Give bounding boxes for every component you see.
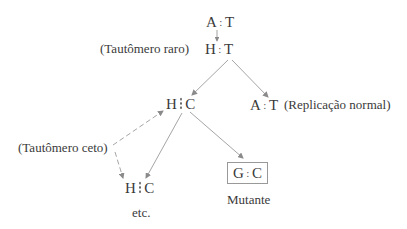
node-hc-bottom-pair: HC [125, 180, 155, 196]
edge-keto-to-hc-bottom [115, 152, 123, 178]
keto-tautomer-label: (Tautômero ceto) [18, 141, 108, 155]
root-separator: : [217, 14, 225, 30]
node-normal-pair: A:T [250, 97, 279, 113]
node-hc-middle-pair: HC [166, 96, 196, 112]
mutant-separator: : [244, 165, 252, 181]
rare-left-base: H [205, 41, 216, 57]
edge-rare-to-normal [232, 60, 268, 97]
normal-left-base: A [250, 97, 261, 113]
node-mutant-pair: G:C [227, 162, 268, 184]
edge-keto-to-hc-middle [113, 111, 163, 145]
rare-tautomer-label: (Tautômero raro) [100, 42, 189, 56]
hc-middle-left-base: H [166, 96, 177, 112]
hc-bottom-left-base: H [125, 180, 136, 196]
root-left-base: A [206, 14, 217, 30]
edge-hc-to-hc-bottom [146, 113, 182, 178]
mutant-left-base: G [233, 165, 244, 181]
mutant-label: Mutante [227, 193, 270, 207]
node-rare-tautomer-pair: H:T [205, 41, 234, 57]
etc-label: etc. [132, 206, 150, 220]
edge-rare-to-hc [192, 60, 228, 95]
mutant-right-base: C [252, 165, 263, 181]
hc-middle-right-base: C [185, 96, 196, 112]
hc-bottom-dotted-separator [139, 181, 141, 194]
root-right-base: T [225, 14, 235, 30]
rare-separator: : [216, 41, 224, 57]
hc-middle-dotted-separator [180, 97, 182, 110]
normal-right-base: T [269, 97, 279, 113]
diagram-edges [0, 0, 407, 229]
hc-bottom-right-base: C [144, 180, 155, 196]
node-root-pair: A:T [206, 14, 235, 30]
edge-hc-to-mutant [190, 112, 243, 158]
rare-right-base: T [224, 41, 234, 57]
normal-replication-label: (Replicação normal) [284, 98, 390, 112]
normal-separator: : [261, 97, 269, 113]
